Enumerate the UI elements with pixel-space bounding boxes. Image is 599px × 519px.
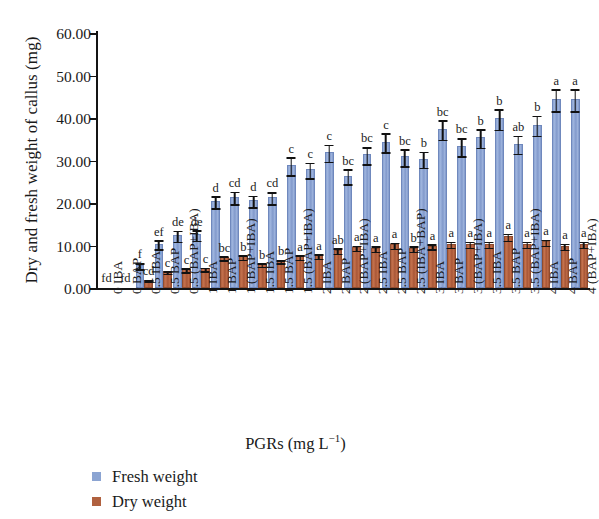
error-bar-cap-top — [419, 152, 428, 154]
error-bar-stem — [518, 136, 520, 156]
error-bar-cap-top — [314, 254, 323, 256]
x-tick-label-cell: 1.5 IBA — [248, 292, 267, 420]
error-bar-cap-top — [230, 192, 239, 194]
x-tick-label-cell: 2.5 IBA — [362, 292, 381, 420]
error-bar-cap-top — [325, 145, 334, 147]
significance-letter: a — [373, 232, 379, 245]
error-bar-cap-top — [457, 138, 466, 140]
error-bar-cap-top — [381, 133, 390, 135]
significance-letter: a — [505, 219, 511, 232]
x-tick-label-cell: 0.5 BAP — [154, 292, 173, 420]
chart-legend: Fresh weightDry weight — [92, 466, 198, 516]
error-bar — [400, 149, 409, 168]
significance-letter: d — [250, 181, 256, 194]
error-bar — [211, 196, 220, 210]
error-bar-stem — [574, 89, 576, 113]
error-bar — [552, 89, 561, 113]
significance-letter: a — [562, 229, 568, 242]
error-bar-cap-top — [485, 242, 494, 244]
x-tick-label-cell: 3 (BAP+IBA) — [457, 292, 476, 420]
x-tick-label: 2 IBA — [320, 261, 333, 294]
significance-letter: b — [477, 115, 483, 128]
x-tick-label-cell: 3.5 BAP — [494, 292, 513, 420]
error-bar-cap-bottom — [325, 162, 334, 164]
error-bar-stem — [555, 89, 557, 113]
x-tick-label: 2 (BAP+IBA) — [357, 218, 370, 294]
error-bar-cap-top — [533, 116, 542, 118]
error-bar-cap-top — [438, 120, 447, 122]
error-bar-cap-bottom — [560, 250, 569, 252]
error-bar-cap-top — [552, 89, 561, 91]
significance-letter: ef — [154, 226, 164, 239]
error-bar-cap-bottom — [485, 248, 494, 250]
error-bar-stem — [328, 145, 330, 164]
x-tick-label: 0.5 BAP — [168, 248, 181, 294]
legend-swatch-dry — [92, 497, 101, 506]
error-bar — [495, 109, 504, 131]
error-bar-cap-bottom — [504, 241, 513, 243]
y-tick-mark — [90, 33, 97, 35]
x-axis-title-main: PGRs (mg L — [245, 434, 328, 453]
x-tick-label-cell: 0.5 IBA — [135, 292, 154, 420]
x-tick-label: 1 BAP — [225, 258, 238, 294]
error-bar — [485, 242, 494, 250]
error-bar-cap-top — [333, 248, 342, 250]
error-bar — [230, 192, 239, 206]
x-tick-label: 3.5 (BAP+IBA) — [528, 208, 541, 294]
error-bar-stem — [423, 152, 425, 170]
significance-letter: b — [421, 137, 427, 150]
significance-letter: cd — [229, 177, 241, 190]
error-bar-cap-bottom — [514, 154, 523, 156]
significance-letter: de — [172, 216, 184, 229]
significance-letter: c — [289, 143, 295, 156]
error-bar — [560, 244, 569, 252]
error-bar-stem — [461, 138, 463, 158]
x-tick-label: 4 BAP — [566, 258, 579, 294]
y-tick-mark — [90, 246, 97, 248]
x-tick-label-cell: 0 IBA — [97, 292, 116, 420]
x-tick-label-cell: 3.5 IBA — [475, 292, 494, 420]
error-bar-cap-top — [363, 147, 372, 149]
significance-letter: a — [392, 228, 398, 241]
error-bar-cap-bottom — [381, 152, 390, 154]
bar-group: cab — [324, 33, 343, 288]
x-tick-label: 1 (BAP+IBA) — [244, 218, 257, 294]
significance-letter: c — [326, 130, 332, 143]
error-bar-stem — [404, 149, 406, 168]
y-tick-mark — [90, 161, 97, 163]
x-tick-label-cell: 2 IBA — [305, 292, 324, 420]
significance-letter: c — [383, 119, 389, 132]
error-bar — [514, 136, 523, 156]
error-bar — [173, 231, 182, 244]
error-bar — [306, 163, 315, 180]
error-bar-cap-bottom — [447, 248, 456, 250]
error-bar — [363, 147, 372, 166]
x-tick-label: 1.5 IBA — [263, 251, 276, 294]
error-bar — [428, 244, 437, 251]
x-tick-label: 0.5 IBA — [149, 251, 162, 294]
error-bar — [571, 89, 580, 113]
x-tick-label-cell: 4 (BAP+IBA) — [570, 292, 589, 420]
error-bar-stem — [537, 116, 539, 137]
x-axis-title-close: ) — [340, 434, 346, 453]
error-bar-cap-bottom — [419, 168, 428, 170]
error-bar-cap-top — [400, 149, 409, 151]
x-tick-label: 2 BAP — [339, 258, 352, 294]
x-axis-title: PGRs (mg L−1) — [0, 432, 591, 454]
error-bar-cap-bottom — [306, 178, 315, 180]
x-tick-label-cell: 0 BAP — [116, 292, 135, 420]
x-tick-label: 2.5 BAP — [395, 248, 408, 294]
x-tick-label: 0 IBA — [111, 261, 124, 294]
error-bar-stem — [385, 133, 387, 153]
x-tick-label: 3 (BAP+IBA) — [471, 218, 484, 294]
x-tick-label-cell: 0.5 (BAP+IBA) — [173, 292, 192, 420]
error-bar-cap-bottom — [268, 204, 277, 206]
error-bar-cap-bottom — [476, 148, 485, 150]
y-tick-label: 50.00 — [41, 69, 91, 85]
bar-group: fd — [116, 33, 135, 288]
y-tick-label: 20.00 — [41, 196, 91, 212]
x-tick-label-cell: 2 (BAP+IBA) — [343, 292, 362, 420]
error-bar — [344, 169, 353, 186]
x-tick-label: 0 BAP — [130, 258, 143, 294]
